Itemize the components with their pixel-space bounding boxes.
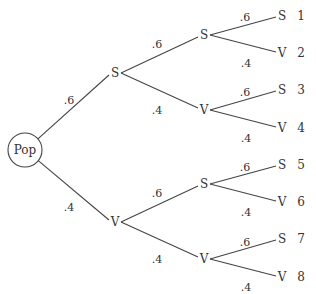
edge-l2-to-leaf-5 [210, 184, 276, 201]
leaf-4-v: V [277, 121, 287, 135]
leaf-number-8: 8 [297, 270, 305, 284]
leaf-1-s: S [278, 9, 286, 23]
edge-l2-to-leaf-3 [210, 110, 276, 127]
prob-l2-to-leaf-0: .6 [240, 11, 251, 24]
leaf-6-v: V [277, 195, 287, 209]
prob-root-to-l1-1: .4 [64, 201, 75, 214]
edge-l2-to-leaf-7 [210, 259, 276, 276]
probability-tree-diagram: Pop SVSVSVS1V2S3V4S5V6S7V8 .6.4.6.4.6.4.… [0, 0, 316, 294]
leaf-number-4: 4 [297, 121, 305, 135]
leaf-number-6: 6 [297, 195, 305, 209]
prob-l1-to-l2-3: .4 [152, 253, 163, 266]
node-l1-v: V [110, 215, 120, 229]
root-label: Pop [14, 143, 37, 157]
prob-l2-to-leaf-2: .6 [240, 86, 251, 99]
leaf-8-v: V [277, 270, 287, 284]
root-node: Pop [8, 133, 42, 167]
leaf-5-s: S [278, 158, 286, 172]
node-l2-1-v: V [199, 103, 209, 117]
tree-nodes: SVSVSVS1V2S3V4S5V6S7V8 [110, 9, 306, 284]
prob-l2-to-leaf-7: .4 [241, 281, 252, 294]
leaf-number-1: 1 [297, 9, 305, 23]
leaf-3-s: S [278, 83, 286, 97]
leaf-7-s: S [278, 232, 286, 246]
leaf-number-5: 5 [297, 158, 305, 172]
prob-l1-to-l2-1: .4 [152, 104, 163, 117]
node-l1-s: S [111, 66, 119, 80]
leaf-number-3: 3 [297, 83, 305, 97]
prob-l1-to-l2-0: .6 [152, 38, 163, 51]
prob-l2-to-leaf-5: .4 [241, 206, 252, 219]
node-l2-3-v: V [199, 252, 209, 266]
prob-l2-to-leaf-1: .4 [241, 57, 252, 70]
node-l2-2-s: S [200, 177, 208, 191]
edge-root-to-l1-0 [38, 75, 109, 139]
leaf-number-2: 2 [297, 46, 305, 60]
prob-root-to-l1-0: .6 [64, 94, 75, 107]
leaf-2-v: V [277, 46, 287, 60]
prob-l2-to-leaf-4: .6 [240, 161, 251, 174]
node-l2-0-s: S [200, 28, 208, 42]
edge-l2-to-leaf-1 [210, 35, 276, 52]
prob-l2-to-leaf-3: .4 [241, 132, 252, 145]
prob-l2-to-leaf-6: .6 [240, 236, 251, 249]
prob-l1-to-l2-2: .6 [152, 187, 163, 200]
branch-probabilities: .6.4.6.4.6.4.6.4.6.4.6.4.6.4 [64, 11, 252, 294]
leaf-number-7: 7 [297, 232, 305, 246]
